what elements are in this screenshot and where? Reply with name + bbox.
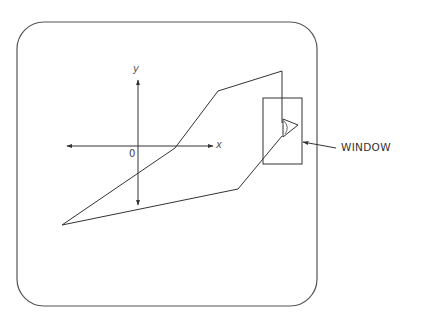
y-axis-label: y xyxy=(133,63,139,74)
x-axis-label: x xyxy=(216,139,222,150)
origin-label: 0 xyxy=(129,148,135,159)
clipped-triangle xyxy=(283,119,298,137)
polygon-outline xyxy=(62,71,282,225)
polygon-outline-lower xyxy=(62,136,282,225)
triangle-inner-curve xyxy=(284,121,287,134)
window-pointer-arrow xyxy=(303,142,336,148)
diagram-canvas xyxy=(0,0,422,319)
window-label: WINDOW xyxy=(341,141,391,153)
